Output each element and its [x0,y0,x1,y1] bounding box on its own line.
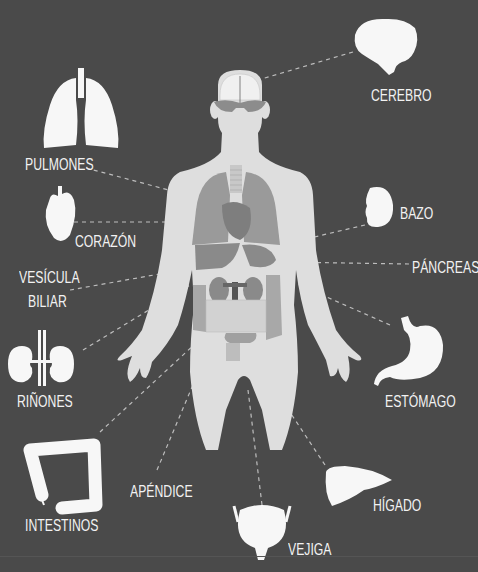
stomach-icon [374,316,443,386]
anatomy-diagram: CEREBRO PULMONES CORAZÓN VESÍCULA BILIAR… [0,0,478,572]
brain-icon [355,19,418,75]
kidneys-icon [8,330,74,386]
label-gallbladder-line2: BILIAR [28,292,67,312]
label-intestines: INTESTINOS [25,516,98,536]
label-bladder: VEJIGA [288,540,332,560]
lungs-icon [44,68,119,148]
human-body-figure [117,70,361,450]
label-pancreas: PÁNCREAS [412,258,478,278]
heart-icon [46,186,76,241]
label-liver: HÍGADO [373,496,421,516]
bottom-divider [0,556,478,557]
label-gallbladder-line1: VESÍCULA [19,268,80,288]
label-kidneys: RIÑONES [17,392,73,412]
label-stomach: ESTÓMAGO [385,392,456,412]
label-heart: CORAZÓN [75,232,136,252]
intestines-icon [30,445,96,508]
label-appendix: APÉNDICE [130,482,193,502]
bladder-icon [234,505,290,560]
label-spleen: BAZO [400,204,433,224]
spleen-icon [366,187,394,227]
label-lungs: PULMONES [25,155,94,175]
label-brain: CEREBRO [371,86,432,106]
